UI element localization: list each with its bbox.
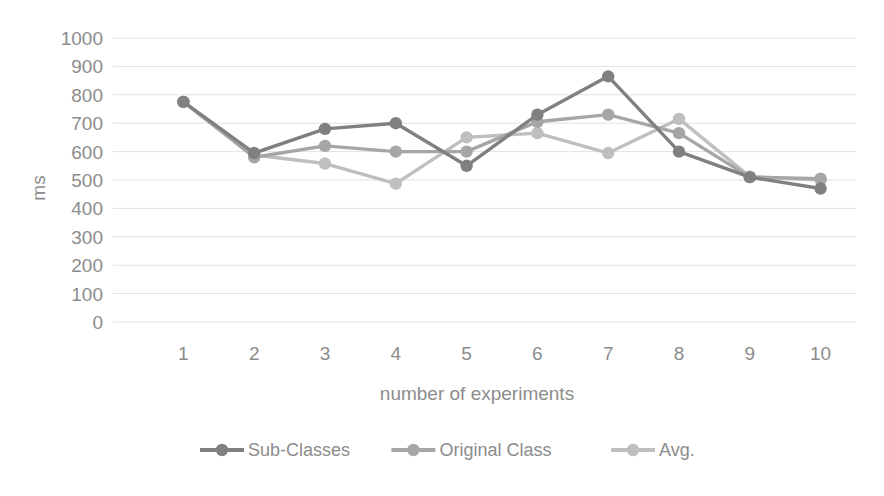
series-marker — [248, 147, 260, 159]
series-marker — [460, 145, 472, 157]
legend-item[interactable]: Avg. — [611, 440, 695, 460]
y-tick-label: 400 — [71, 198, 103, 219]
series-group — [177, 70, 827, 195]
x-tick-label: 5 — [461, 343, 472, 364]
series-marker — [390, 117, 402, 129]
series-marker — [602, 70, 614, 82]
y-tick-label: 800 — [71, 85, 103, 106]
legend-label: Avg. — [659, 440, 695, 460]
series-marker — [814, 182, 826, 194]
series-marker — [602, 108, 614, 120]
x-tick-label: 7 — [603, 343, 614, 364]
series-marker — [602, 147, 614, 159]
y-axis-title: ms — [28, 175, 49, 200]
legend-marker-swatch — [407, 444, 419, 456]
x-axis-tick-labels: 12345678910 — [178, 343, 831, 364]
series-marker — [744, 171, 756, 183]
series-marker — [460, 160, 472, 172]
x-tick-label: 2 — [249, 343, 260, 364]
x-tick-label: 10 — [810, 343, 831, 364]
series-marker — [673, 127, 685, 139]
y-tick-label: 700 — [71, 113, 103, 134]
legend-marker-swatch — [627, 444, 639, 456]
x-axis-title: number of experiments — [380, 383, 574, 404]
series-marker — [460, 131, 472, 143]
y-tick-label: 100 — [71, 284, 103, 305]
y-tick-label: 200 — [71, 255, 103, 276]
legend-marker-swatch — [216, 444, 228, 456]
x-tick-label: 6 — [532, 343, 543, 364]
series-line — [183, 76, 820, 188]
legend-label: Original Class — [439, 440, 551, 460]
series-marker — [319, 157, 331, 169]
series-marker — [673, 113, 685, 125]
legend-item[interactable]: Original Class — [391, 440, 551, 460]
y-tick-label: 500 — [71, 170, 103, 191]
series-marker — [390, 145, 402, 157]
y-tick-label: 1000 — [61, 28, 103, 49]
y-tick-label: 600 — [71, 142, 103, 163]
series-marker — [531, 108, 543, 120]
x-tick-label: 9 — [745, 343, 756, 364]
legend-item[interactable]: Sub-Classes — [200, 440, 350, 460]
series-marker — [319, 140, 331, 152]
y-axis-tick-labels: 10009008007006005004003002001000 — [61, 28, 103, 333]
x-tick-label: 3 — [320, 343, 331, 364]
series-marker — [390, 177, 402, 189]
series-marker — [319, 123, 331, 135]
series-marker — [177, 96, 189, 108]
x-tick-label: 1 — [178, 343, 189, 364]
legend: Sub-ClassesOriginal ClassAvg. — [200, 440, 695, 460]
x-tick-label: 4 — [391, 343, 402, 364]
line-chart: 10009008007006005004003002001000 1234567… — [0, 0, 884, 496]
y-tick-label: 300 — [71, 227, 103, 248]
series-marker — [531, 127, 543, 139]
y-tick-label: 900 — [71, 56, 103, 77]
legend-label: Sub-Classes — [248, 440, 350, 460]
series-marker — [673, 145, 685, 157]
chart-canvas: 10009008007006005004003002001000 1234567… — [0, 0, 884, 496]
y-tick-label: 0 — [92, 312, 103, 333]
x-tick-label: 8 — [674, 343, 685, 364]
